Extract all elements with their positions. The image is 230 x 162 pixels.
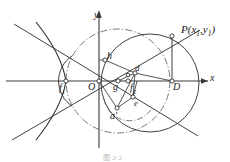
point-P-prefix: P(x bbox=[181, 23, 196, 35]
point-P-label: P(x1,y1) bbox=[181, 24, 215, 38]
point-g-label: g bbox=[113, 82, 118, 92]
point-h-label: h bbox=[107, 51, 112, 61]
point-marker-d2 bbox=[126, 73, 130, 77]
focus-2-subscript: 2 bbox=[133, 88, 136, 95]
point-marker-origin bbox=[97, 79, 101, 83]
point-P-suffix: ) bbox=[211, 23, 215, 35]
focus-1-label: f1 bbox=[59, 83, 65, 96]
point-P-middle: ,y bbox=[200, 23, 208, 35]
point-D-label: D bbox=[173, 82, 180, 92]
y-axis-label: y bbox=[94, 10, 98, 20]
figure-caption: 图 2-2 bbox=[103, 152, 122, 162]
origin-label: O bbox=[88, 82, 95, 92]
point-d-label: d bbox=[135, 64, 140, 73]
point-marker-P bbox=[170, 34, 174, 38]
point-a-prime-label: a′ bbox=[110, 111, 117, 121]
focus-2-label: f2 bbox=[130, 83, 136, 96]
figure-container: y x O f1 f2 g h d e a′ D P(x1,y1) 图 2-2 bbox=[0, 0, 230, 162]
x-axis-arrow bbox=[201, 78, 208, 84]
x-axis-label: x bbox=[210, 73, 214, 83]
focus-1-subscript: 1 bbox=[62, 88, 65, 95]
point-e-label: e bbox=[134, 99, 138, 108]
